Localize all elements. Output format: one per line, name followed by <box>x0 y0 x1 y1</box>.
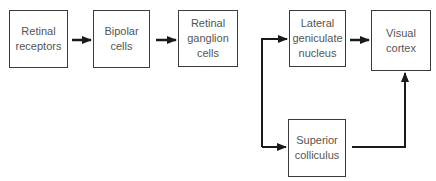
node-label: Retinal receptors <box>16 24 62 54</box>
node-lateral-geniculate-nucleus: Lateral geniculate nucleus <box>289 10 346 67</box>
node-label: Visual cortex <box>386 26 416 56</box>
node-label: Lateral geniculate nucleus <box>292 16 342 61</box>
node-retinal-ganglion-cells: Retinal ganglion cells <box>178 10 238 67</box>
node-label: Superior colliculus <box>295 133 340 163</box>
node-retinal-receptors: Retinal receptors <box>9 10 68 68</box>
node-label: Retinal ganglion cells <box>187 16 229 61</box>
node-visual-cortex: Visual cortex <box>371 10 431 71</box>
arrow-ganglion-to-lgn <box>262 39 287 147</box>
node-label: Bipolar cells <box>104 24 138 54</box>
arrow-sc-to-cortex <box>352 73 405 147</box>
node-bipolar-cells: Bipolar cells <box>93 10 150 68</box>
node-superior-colliculus: Superior colliculus <box>288 119 346 177</box>
